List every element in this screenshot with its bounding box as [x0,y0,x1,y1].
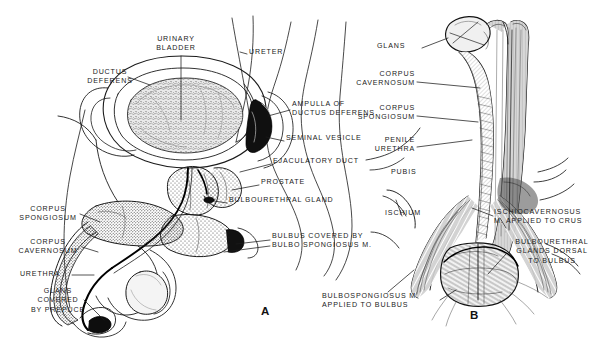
label-ischiocavernosus-m-applied-to-crus: ISCHIOCAVERNOSUSM. APPLIED TO CRUS [494,208,582,227]
label-corpus-spongiosum-a: CORPUSSPONGIOSUM [19,205,76,224]
label-glans-b: GLANS [377,42,405,51]
label-ductus-deferens: DUCTUSDEFERENS [87,68,132,87]
label-bulbourethral-gland: BULBOURETHRAL GLAND [229,196,334,205]
label-bulbourethral-glands-dorsal-to-bulbus: BULBOURETHRALGLANDS DORSALTO BULBUS [515,238,588,266]
label-prostate: PROSTATE [261,178,305,187]
label-corpus-cavernosum-a: CORPUSCAVERNOSUM [19,238,78,257]
panel-letter-a: A [261,305,270,317]
label-bulbus-covered-by-bulbo-spongiosus-m: BULBUS COVERED BYBULBO SPONGIOSUS M. [272,232,372,251]
label-glans-covered-by-prepuce: GLANSCOVEREDBY PREPUCE [31,287,85,315]
label-penile-urethra: PENILEURETHRA [375,136,415,155]
label-corpus-spongiosum-b: CORPUSSPONGIOSUM [358,104,415,123]
label-urethra-a: URETHRA [20,270,60,279]
anatomy-illustration [0,0,599,339]
label-ureter: URETER [249,48,283,57]
label-ejaculatory-duct: EJACULATORY DUCT [273,157,359,166]
label-corpus-cavernosum-b: CORPUSCAVERNOSUM [356,70,415,89]
label-seminal-vesicle: SEMINAL VESICLE [286,134,362,143]
panel-letter-b: B [470,309,479,321]
label-ischium: ISCHIUM [385,209,421,218]
label-bulbospongiosus-m-applied-to-bulbus: BULBOSPONGIOSUS M.APPLIED TO BULBUS [322,292,419,311]
anatomical-figure: URINARYBLADDER URETER DUCTUSDEFERENS AMP… [0,0,599,339]
label-urinary-bladder: URINARYBLADDER [156,35,195,54]
label-pubis: PUBIS [391,168,417,177]
